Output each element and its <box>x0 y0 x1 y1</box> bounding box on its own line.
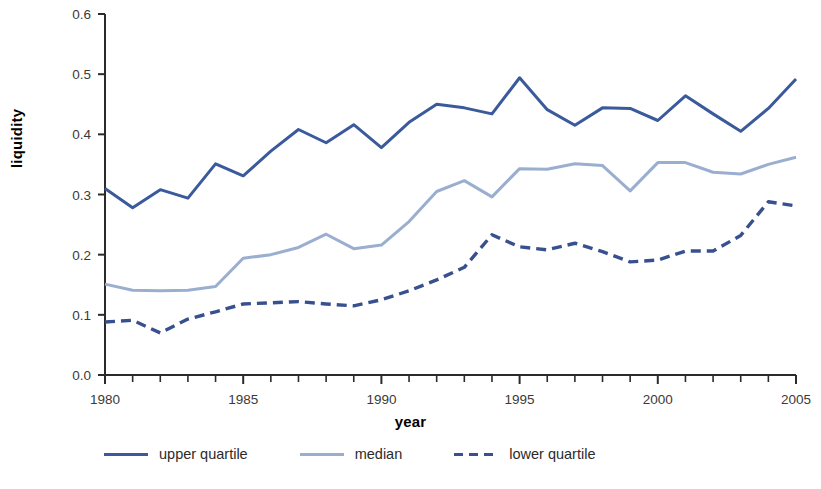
chart-legend: upper quartile median lower quartile <box>104 446 647 462</box>
legend-label-median: median <box>355 446 403 462</box>
y-tick-label: 0.5 <box>72 67 91 82</box>
x-tick-label: 2005 <box>781 392 811 407</box>
legend-swatch-solid-light-icon <box>300 448 344 460</box>
series-line-lower-quartile <box>105 202 796 333</box>
y-tick-label: 0.6 <box>72 7 91 22</box>
y-tick-label: 0.2 <box>72 248 91 263</box>
chart-series-group <box>105 78 796 333</box>
legend-item-lower-quartile[interactable]: lower quartile <box>454 446 595 462</box>
x-tick-label: 2000 <box>643 392 673 407</box>
y-axis-ticks: 0.00.10.20.30.40.50.6 <box>72 7 105 383</box>
series-line-upper-quartile <box>105 78 796 208</box>
legend-item-median[interactable]: median <box>300 446 403 462</box>
x-tick-label: 1990 <box>366 392 396 407</box>
chart-axes <box>105 14 796 375</box>
chart-figure: 0.00.10.20.30.40.50.6 198019851990199520… <box>0 0 821 489</box>
series-line-median <box>105 157 796 291</box>
legend-label-lower-quartile: lower quartile <box>509 446 595 462</box>
y-axis-label: liquidity <box>8 109 25 168</box>
y-tick-label: 0.4 <box>72 127 91 142</box>
x-tick-label: 1985 <box>228 392 258 407</box>
x-tick-label: 1995 <box>505 392 535 407</box>
y-tick-label: 0.0 <box>72 368 91 383</box>
legend-item-upper-quartile[interactable]: upper quartile <box>104 446 248 462</box>
x-tick-label: 1980 <box>90 392 120 407</box>
y-tick-label: 0.1 <box>72 308 91 323</box>
x-axis-label: year <box>0 413 821 430</box>
legend-swatch-dashed-icon <box>454 448 498 460</box>
y-tick-label: 0.3 <box>72 188 91 203</box>
legend-label-upper-quartile: upper quartile <box>159 446 248 462</box>
x-axis-ticks: 198019851990199520002005 <box>90 375 811 407</box>
legend-swatch-solid-dark-icon <box>104 448 148 460</box>
